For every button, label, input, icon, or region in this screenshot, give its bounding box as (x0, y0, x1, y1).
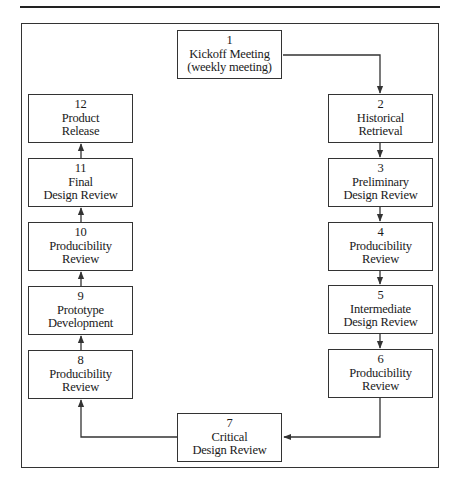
step-label: Review (362, 380, 399, 394)
step-label: Review (362, 253, 399, 267)
step-label: Design Review (43, 189, 117, 203)
step-number: 11 (75, 162, 87, 176)
step-label: Kickoff Meeting (189, 48, 269, 62)
step-8-producibility-review: 8 Producibility Review (28, 350, 133, 399)
step-number: 6 (377, 353, 383, 367)
step-label: Producibility (49, 240, 112, 254)
step-label: Producibility (349, 240, 412, 254)
step-9-prototype-development: 9 Prototype Development (28, 286, 133, 335)
step-12-product-release: 12 Product Release (28, 94, 133, 143)
arrow-6-to-7 (284, 398, 380, 437)
step-label: Development (48, 317, 113, 331)
step-label: Design Review (343, 189, 417, 203)
step-6-producibility-review: 6 Producibility Review (328, 349, 433, 398)
step-11-final-design-review: 11 Final Design Review (28, 158, 133, 207)
step-number: 12 (74, 98, 86, 112)
step-1-kickoff-meeting: 1 Kickoff Meeting (weekly meeting) (177, 30, 282, 79)
step-label: Historical (357, 112, 404, 126)
step-label: Review (62, 381, 99, 395)
step-label: Release (62, 125, 99, 139)
step-5-intermediate-design-review: 5 Intermediate Design Review (328, 285, 433, 334)
arrow-7-to-8 (81, 400, 177, 437)
step-label: Prototype (57, 304, 104, 318)
step-label: Preliminary (352, 176, 409, 190)
step-label: Producibility (349, 367, 412, 381)
step-number: 9 (77, 290, 83, 304)
step-3-preliminary-design-review: 3 Preliminary Design Review (328, 158, 433, 207)
step-label: Producibility (49, 368, 112, 382)
step-number: 2 (377, 98, 383, 112)
step-2-historical-retrieval: 2 Historical Retrieval (328, 94, 433, 143)
step-label: Final (68, 176, 93, 190)
step-label: Intermediate (350, 303, 411, 317)
step-label: Design Review (343, 316, 417, 330)
arrow-1-to-2 (283, 55, 380, 93)
step-label: Review (62, 253, 99, 267)
step-number: 7 (226, 417, 232, 431)
step-7-critical-design-review: 7 Critical Design Review (177, 413, 282, 462)
step-number: 5 (377, 289, 383, 303)
step-number: 1 (226, 34, 232, 48)
step-number: 8 (77, 354, 83, 368)
step-label: Design Review (192, 444, 266, 458)
step-label: Critical (212, 431, 248, 445)
step-number: 10 (74, 226, 86, 240)
step-label: Product (62, 112, 100, 126)
step-label: Retrieval (358, 125, 402, 139)
step-number: 4 (377, 226, 383, 240)
step-4-producibility-review: 4 Producibility Review (328, 222, 433, 271)
step-label: (weekly meeting) (187, 61, 272, 75)
step-10-producibility-review: 10 Producibility Review (28, 222, 133, 271)
step-number: 3 (377, 162, 383, 176)
